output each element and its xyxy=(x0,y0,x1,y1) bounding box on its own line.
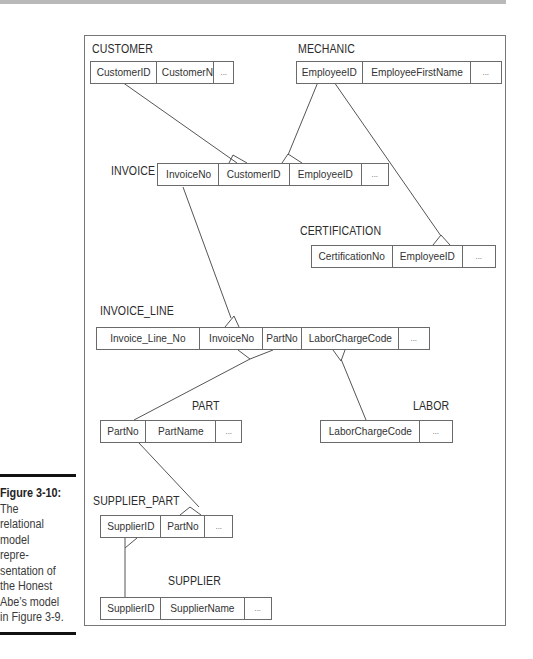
caption-line: sentation of xyxy=(0,564,76,580)
more-columns-cell: ... xyxy=(216,421,241,442)
column-cell: CustomerName xyxy=(157,62,214,83)
column-cell: PartNo xyxy=(263,328,302,349)
more-columns-cell: ... xyxy=(205,516,232,537)
table-supplier-part: SupplierID PartNo ... xyxy=(100,515,233,538)
column-cell: PartNo xyxy=(101,421,146,442)
caption-line: the Honest xyxy=(0,579,76,595)
table-customer: CustomerID CustomerName ... xyxy=(90,61,234,84)
column-cell: SupplierID xyxy=(101,516,161,537)
column-cell: LaborChargeCode xyxy=(302,328,399,349)
caption-text: Figure 3-10: The relational model repre-… xyxy=(0,477,76,632)
table-title-certification: CERTIFICATION xyxy=(300,224,381,238)
caption-line: model xyxy=(0,533,76,549)
more-columns-cell: ... xyxy=(362,164,388,185)
caption-line: relational xyxy=(0,517,76,533)
column-cell: CustomerID xyxy=(219,164,289,185)
table-title-invoice: INVOICE xyxy=(111,164,155,178)
caption-line: repre- xyxy=(0,548,76,564)
more-columns-cell: ... xyxy=(463,246,495,267)
caption-line: Abe’s model xyxy=(0,595,76,611)
table-title-labor: LABOR xyxy=(413,399,449,413)
figure-label: Figure 3-10: xyxy=(0,486,76,502)
column-cell: SupplierName xyxy=(161,598,245,619)
caption-bottom-rule xyxy=(0,632,76,635)
more-columns-cell: ... xyxy=(420,421,452,442)
column-cell: EmployeeID xyxy=(393,246,463,267)
table-labor: LaborChargeCode ... xyxy=(320,420,453,443)
table-title-customer: CUSTOMER xyxy=(92,42,153,56)
column-cell: InvoiceNo xyxy=(200,328,263,349)
table-invoice-line: Invoice_Line_No InvoiceNo PartNo LaborCh… xyxy=(96,327,430,350)
table-part: PartNo PartName ... xyxy=(100,420,242,443)
column-cell: EmployeeID xyxy=(290,164,362,185)
column-cell: EmployeeID xyxy=(297,62,363,83)
table-title-invoice-line: INVOICE_LINE xyxy=(100,304,174,318)
caption-line: The xyxy=(0,502,76,518)
table-title-supplier: SUPPLIER xyxy=(168,574,221,588)
column-cell: EmployeeFirstName xyxy=(363,62,471,83)
table-invoice: InvoiceNo CustomerID EmployeeID ... xyxy=(157,163,389,186)
column-cell: Invoice_Line_No xyxy=(97,328,200,349)
column-cell: SupplierID xyxy=(101,598,161,619)
figure-caption: Figure 3-10: The relational model repre-… xyxy=(0,474,76,635)
more-columns-cell: ... xyxy=(471,62,501,83)
column-cell: PartName xyxy=(146,421,216,442)
more-columns-cell: ... xyxy=(214,62,233,83)
table-title-supplier-part: SUPPLIER_PART xyxy=(93,494,179,508)
table-title-part: PART xyxy=(192,399,220,413)
column-cell: PartNo xyxy=(161,516,205,537)
page-top-rule xyxy=(0,0,506,4)
caption-line: in Figure 3-9. xyxy=(0,610,76,626)
column-cell: LaborChargeCode xyxy=(321,421,420,442)
more-columns-cell: ... xyxy=(399,328,429,349)
table-mechanic: EmployeeID EmployeeFirstName ... xyxy=(296,61,502,84)
more-columns-cell: ... xyxy=(245,598,271,619)
table-title-mechanic: MECHANIC xyxy=(298,42,355,56)
column-cell: CustomerID xyxy=(91,62,157,83)
table-supplier: SupplierID SupplierName ... xyxy=(100,597,272,620)
column-cell: InvoiceNo xyxy=(158,164,219,185)
table-certification: CertificationNo EmployeeID ... xyxy=(311,245,496,268)
column-cell: CertificationNo xyxy=(312,246,393,267)
